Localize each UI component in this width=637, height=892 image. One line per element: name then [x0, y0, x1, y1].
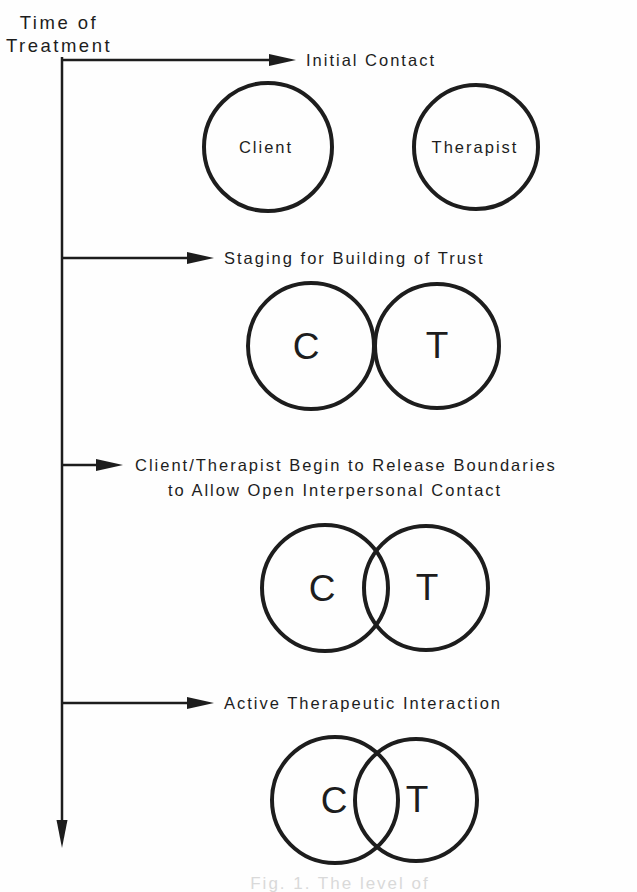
stage3-title-line1: Client/Therapist Begin to Release Bounda…: [135, 456, 557, 474]
stage2-therapist-label: T: [426, 325, 449, 366]
stage2-title: Staging for Building of Trust: [224, 249, 485, 267]
timeline-down-arrowhead-icon: [57, 820, 68, 848]
timeline-title-line2: Treatment: [6, 35, 112, 56]
stage4-therapist-label: T: [406, 779, 429, 820]
stage3-title-line2: to Allow Open Interpersonal Contact: [168, 481, 502, 499]
stage1-title: Initial Contact: [306, 51, 436, 69]
stage-release-boundaries: Client/Therapist Begin to Release Bounda…: [62, 456, 557, 651]
figure-canvas: Time of Treatment Initial Contact Client…: [0, 0, 637, 892]
stage-building-trust: Staging for Building of Trust C T: [62, 249, 499, 409]
stage3-therapist-label: T: [416, 567, 439, 608]
stage4-title: Active Therapeutic Interaction: [224, 694, 502, 712]
stage1-client-label: Client: [239, 138, 293, 156]
therapy-stages-diagram: Time of Treatment Initial Contact Client…: [0, 0, 637, 892]
stage4-client-label: C: [321, 780, 348, 821]
stage3-client-label: C: [309, 568, 336, 609]
stage2-right-arrowhead-icon: [187, 252, 214, 264]
stage2-client-label: C: [293, 326, 320, 367]
timeline-title-line1: Time of: [20, 12, 99, 33]
figure-caption-partial: Fig. 1. The level of: [250, 874, 430, 892]
stage4-right-arrowhead-icon: [187, 697, 214, 709]
stage-initial-contact: Initial Contact Client Therapist: [62, 51, 538, 211]
stage1-right-arrowhead-icon: [269, 54, 296, 66]
stage-active-interaction: Active Therapeutic Interaction C T: [62, 694, 502, 863]
timeline-axis-group: Time of Treatment: [6, 12, 112, 848]
stage3-right-arrowhead-icon: [96, 459, 123, 471]
stage1-therapist-label: Therapist: [432, 138, 519, 156]
